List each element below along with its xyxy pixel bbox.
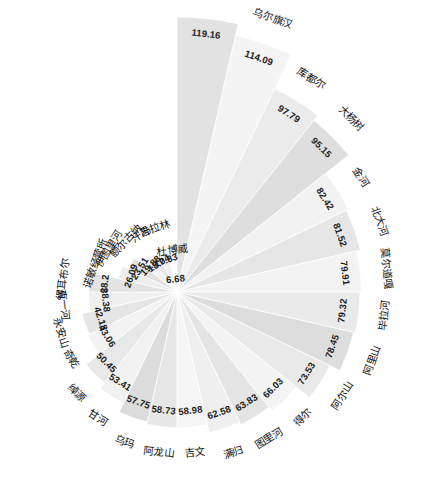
sector-category-label: 阿里山 [361, 344, 382, 377]
sector-category-label: 毕拉河 [376, 299, 391, 332]
sector-value-label: 6.68 [166, 272, 186, 285]
sector-category-label: 阿尔山 [329, 379, 355, 411]
sector-category-label: 库都尔 [295, 65, 327, 91]
sector-category-label: 吉文 [184, 445, 206, 459]
sector-category-label: 图里河 [253, 424, 286, 451]
sector-category-label: 莫尔道嘎 [379, 247, 396, 290]
sector-category-label: 奇乾 [61, 346, 82, 370]
sector-category-label: 大杨树 [336, 103, 367, 134]
rose-chart-svg: 119.16114.0997.7995.1582.4281.5279.9179.… [0, 0, 424, 490]
sector-category-label: 吉拉林 [138, 217, 172, 239]
sector-category-label: 绰源 [66, 381, 89, 404]
sector-category-label: 永安山 [51, 316, 72, 349]
polar-rose-chart: 119.16114.0997.7995.1582.4281.5279.9179.… [0, 0, 424, 490]
sector-category-label: 乌尔旗汉 [252, 6, 295, 31]
sector-category-label: 乌玛 [113, 432, 136, 450]
sector-category-label: 阿龙山 [143, 444, 175, 459]
sector-category-label: 得尔 [291, 406, 314, 429]
sector-category-label: 满归 [221, 443, 244, 461]
sector-category-label: 金河 [350, 165, 371, 189]
sector-category-label: 北大河 [369, 205, 391, 239]
sector-category-label: 甘河 [86, 407, 110, 428]
sector-value-label: 38.2 [98, 274, 111, 294]
